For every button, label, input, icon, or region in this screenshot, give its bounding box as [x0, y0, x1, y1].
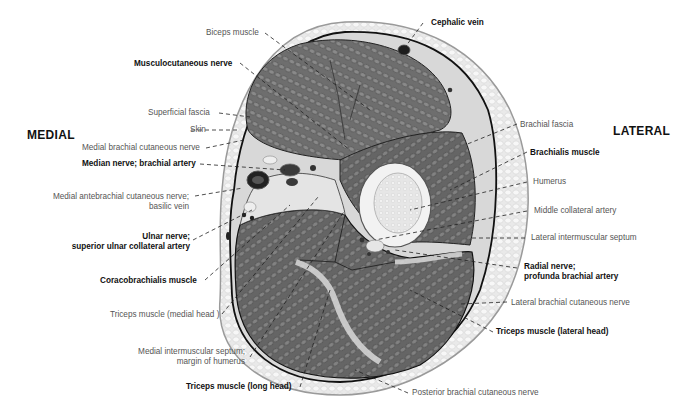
label-medial-septum-line1: Medial intermuscular septum; [138, 347, 245, 357]
label-ulnar-line2: superior ulnar collateral artery [72, 242, 190, 252]
label-medial-intermuscular-septum: Medial intermuscular septum; margin of h… [138, 347, 245, 367]
label-medial-antebrachial-line1: Medial antebrachial cutaneous nerve; [53, 192, 189, 202]
ulnar-nerve [244, 202, 256, 212]
label-ulnar-line1: Ulnar nerve; [72, 232, 190, 242]
medial-orientation-label: MEDIAL [27, 128, 75, 142]
label-skin: Skin [190, 125, 206, 135]
label-posterior-brachial-cutaneous-nerve: Posterior brachial cutaneous nerve [412, 388, 539, 398]
label-coracobrachialis-muscle: Coracobrachialis muscle [100, 276, 197, 286]
label-cephalic-vein: Cephalic vein [431, 18, 484, 28]
label-musculocutaneous-nerve: Musculocutaneous nerve [134, 59, 232, 69]
label-triceps-medial-head: Triceps muscle (medial head ) [110, 310, 219, 320]
label-triceps-lateral-head: Triceps muscle (lateral head) [496, 327, 608, 337]
brachial-artery [280, 164, 300, 176]
label-brachialis-muscle: Brachialis muscle [530, 148, 600, 158]
label-medial-antebrachial-cutaneous-nerve: Medial antebrachial cutaneous nerve; bas… [53, 192, 189, 212]
label-ulnar-nerve: Ulnar nerve; superior ulnar collateral a… [72, 232, 190, 252]
label-radial-nerve: Radial nerve; profunda brachial artery [524, 262, 618, 282]
cephalic-vein [398, 45, 410, 55]
label-medial-antebrachial-line2: basilic vein [53, 202, 189, 212]
label-biceps-muscle: Biceps muscle [206, 28, 259, 38]
label-middle-collateral-artery: Middle collateral artery [534, 206, 616, 216]
label-lateral-intermuscular-septum: Lateral intermuscular septum [531, 233, 637, 243]
label-radial-line1: Radial nerve; [524, 262, 618, 272]
radial-nerve [366, 240, 384, 252]
label-humerus: Humerus [533, 177, 566, 187]
label-radial-line2: profunda brachial artery [524, 272, 618, 282]
lateral-orientation-label: LATERAL [613, 124, 670, 138]
label-superficial-fascia: Superficial fascia [148, 108, 210, 118]
label-brachial-fascia: Brachial fascia [520, 120, 573, 130]
label-medial-brachial-cutaneous-nerve: Medial brachial cutaneous nerve [82, 143, 200, 153]
label-medial-septum-line2: margin of humerus [138, 357, 245, 367]
median-nerve [263, 156, 277, 164]
label-median-nerve-brachial-artery: Median nerve; brachial artery [82, 159, 196, 169]
label-lateral-brachial-cutaneous-nerve: Lateral brachial cutaneous nerve [511, 298, 630, 308]
label-triceps-long-head: Triceps muscle (long head) [186, 382, 292, 392]
